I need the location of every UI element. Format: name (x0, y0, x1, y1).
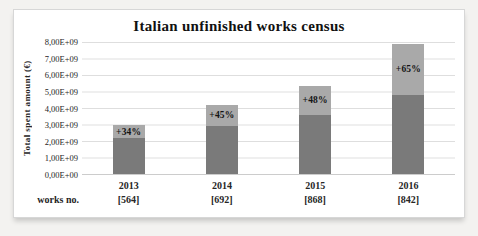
x-tick-label: 2014 (175, 180, 268, 191)
bar-segment-base (113, 138, 145, 174)
y-axis-title: Total spent amount (€) (20, 42, 34, 175)
chart-card: Italian unfinished works census Total sp… (13, 9, 465, 218)
bar-group: +34% (82, 42, 175, 174)
y-tick-label: 5,00E+09 (45, 87, 78, 97)
works-row-label: works no. (20, 194, 82, 205)
x-tick-label: 2015 (269, 180, 362, 191)
y-tick-label: 3,00E+09 (45, 120, 78, 130)
stacked-bar: +65% (392, 42, 424, 174)
bars: +34%+45%+48%+65% (82, 42, 455, 174)
y-tick-label: 0,00E+00 (45, 170, 78, 180)
y-tick-label: 6,00E+09 (45, 70, 78, 80)
y-ticks: 8,00E+097,00E+096,00E+095,00E+094,00E+09… (34, 42, 82, 175)
bar-segment-base (206, 126, 238, 174)
bar-segment-increase: +65% (392, 44, 424, 95)
chart-body: Total spent amount (€) 8,00E+097,00E+096… (20, 42, 455, 175)
works-count: [692] (175, 194, 268, 205)
x-tick-label: 2013 (82, 180, 175, 191)
works-count: [842] (362, 194, 455, 205)
works-numbers: [564][692][868][842] (82, 194, 455, 205)
chart-title: Italian unfinished works census (14, 10, 464, 35)
y-tick-label: 1,00E+09 (45, 153, 78, 163)
bar-group: +65% (362, 42, 455, 174)
works-count: [868] (269, 194, 362, 205)
bar-percent-label: +48% (303, 95, 328, 105)
stacked-bar: +34% (113, 42, 145, 174)
bar-segment-increase: +45% (206, 105, 238, 126)
bar-group: +45% (175, 42, 268, 174)
bar-segment-increase: +48% (299, 86, 331, 115)
x-axis-years-row: 2013201420152016 (20, 180, 455, 191)
plot-area: +34%+45%+48%+65% (82, 42, 455, 175)
y-tick-label: 4,00E+09 (45, 104, 78, 114)
bar-percent-label: +34% (116, 127, 141, 137)
y-tick-label: 2,00E+09 (45, 137, 78, 147)
bar-group: +48% (269, 42, 362, 174)
works-count: [564] (82, 194, 175, 205)
y-tick-label: 7,00E+09 (45, 54, 78, 64)
bar-segment-base (299, 115, 331, 174)
bar-percent-label: +45% (209, 110, 234, 120)
bar-segment-base (392, 95, 424, 174)
stacked-bar: +45% (206, 42, 238, 174)
works-row: works no. [564][692][868][842] (20, 194, 455, 205)
x-tick-label: 2016 (362, 180, 455, 191)
year-labels: 2013201420152016 (82, 180, 455, 191)
y-tick-label: 8,00E+09 (45, 37, 78, 47)
page: Italian unfinished works census Total sp… (0, 0, 478, 236)
bar-percent-label: +65% (396, 64, 421, 74)
stacked-bar: +48% (299, 42, 331, 174)
bar-segment-increase: +34% (113, 125, 145, 137)
